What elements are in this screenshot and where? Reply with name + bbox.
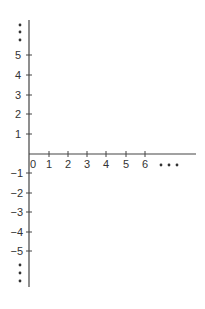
y-tick-label: 1 [15, 128, 21, 140]
y-tick-label: −1 [10, 167, 23, 179]
y-tick-label: 4 [15, 69, 21, 81]
coordinate-axes: 5 4 3 2 1 −1 −2 −3 −4 −5 0 1 2 3 4 5 6 [0, 0, 205, 309]
x-tick-label: 2 [65, 158, 71, 170]
x-tick-label: 5 [123, 158, 129, 170]
x-tick-label: 4 [103, 158, 109, 170]
x-tick-label: 6 [142, 158, 148, 170]
y-axis-top-ellipsis [19, 24, 22, 42]
y-tick-label: 3 [15, 89, 21, 101]
x-axis-ellipsis [160, 164, 179, 167]
y-tick-label: 2 [15, 108, 21, 120]
y-tick-label: −3 [10, 206, 23, 218]
y-tick-label: −5 [10, 245, 23, 257]
origin-label: 0 [30, 158, 36, 170]
y-tick-label: −4 [10, 226, 23, 238]
y-tick-label: −2 [10, 187, 23, 199]
y-axis-bottom-ellipsis [19, 264, 22, 283]
x-tick-label: 3 [84, 158, 90, 170]
x-tick-label: 1 [46, 158, 52, 170]
y-tick-label: 5 [15, 49, 21, 61]
